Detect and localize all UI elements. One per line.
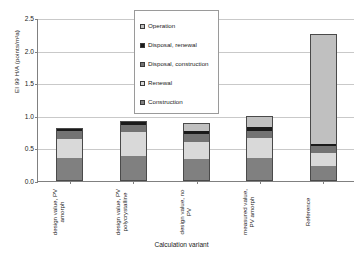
legend-label: Disposal, construction (148, 61, 209, 67)
y-tick-mark (35, 117, 38, 118)
legend-item: Disposal, renewal (140, 36, 218, 55)
bar-stack (310, 34, 337, 181)
x-tick-mark (260, 181, 261, 184)
chart-legend: OperationDisposal, renewalDisposal, cons… (134, 10, 219, 114)
bar-segment (246, 158, 273, 181)
x-category-label: Reference (304, 186, 340, 238)
bar-segment (183, 123, 210, 131)
bar-chart: EI 99 H/A (points/m²a) 0.00.51.01.52.02.… (0, 0, 363, 256)
bar-segment (246, 131, 273, 138)
y-tick-label: 2.5 (25, 16, 34, 23)
bar-segment (246, 116, 273, 127)
y-tick-label: 0.5 (25, 146, 34, 153)
legend-swatch-icon (140, 62, 145, 67)
x-tick-mark (70, 181, 71, 184)
y-tick-mark (35, 84, 38, 85)
y-tick-mark (35, 52, 38, 53)
bar-stack (183, 123, 210, 181)
y-tick-label: 1.5 (25, 81, 34, 88)
legend-swatch-icon (140, 100, 145, 105)
legend-label: Disposal, renewal (148, 42, 197, 48)
bar-segment (310, 166, 337, 181)
x-category-label: design value, PV polycrystalline (114, 186, 150, 238)
bar-segment (56, 158, 83, 181)
x-axis-title: Calculation variant (0, 241, 363, 248)
legend-label: Renewal (148, 80, 172, 86)
legend-swatch-icon (140, 24, 145, 29)
y-tick-mark (35, 182, 38, 183)
legend-item: Operation (140, 17, 218, 36)
bar-segment (183, 134, 210, 141)
legend-label: Operation (148, 23, 175, 29)
x-category-label: measured value, PV amorph (241, 186, 277, 238)
y-tick-label: 0.0 (25, 179, 34, 186)
x-category-label: design value, no PV (178, 186, 214, 238)
x-tick-mark (133, 181, 134, 184)
bar-segment (310, 153, 337, 165)
x-category-label: design value, PV amorph (51, 186, 87, 238)
bar-segment (183, 142, 210, 159)
y-tick-label: 1.0 (25, 114, 34, 121)
x-tick-mark (197, 181, 198, 184)
y-tick-label: 2.0 (25, 48, 34, 55)
gridline (38, 117, 354, 118)
y-tick-mark (35, 19, 38, 20)
legend-item: Construction (140, 93, 218, 112)
bar-segment (246, 138, 273, 158)
legend-label: Construction (148, 99, 183, 105)
legend-item: Renewal (140, 74, 218, 93)
bar-stack (120, 121, 147, 181)
bar-segment (120, 132, 147, 155)
bar-segment (310, 146, 337, 153)
x-tick-mark (323, 181, 324, 184)
bar-segment (183, 159, 210, 181)
bar-segment (310, 34, 337, 144)
bar-segment (56, 139, 83, 158)
bar-stack (56, 128, 83, 181)
legend-item: Disposal, construction (140, 55, 218, 74)
bar-segment (120, 125, 147, 132)
legend-swatch-icon (140, 81, 145, 86)
legend-swatch-icon (140, 43, 145, 48)
bar-segment (56, 131, 83, 138)
y-tick-mark (35, 149, 38, 150)
bar-stack (246, 116, 273, 181)
y-axis-title: EI 99 H/A (points/m²a) (13, 7, 20, 117)
bar-segment (120, 156, 147, 181)
